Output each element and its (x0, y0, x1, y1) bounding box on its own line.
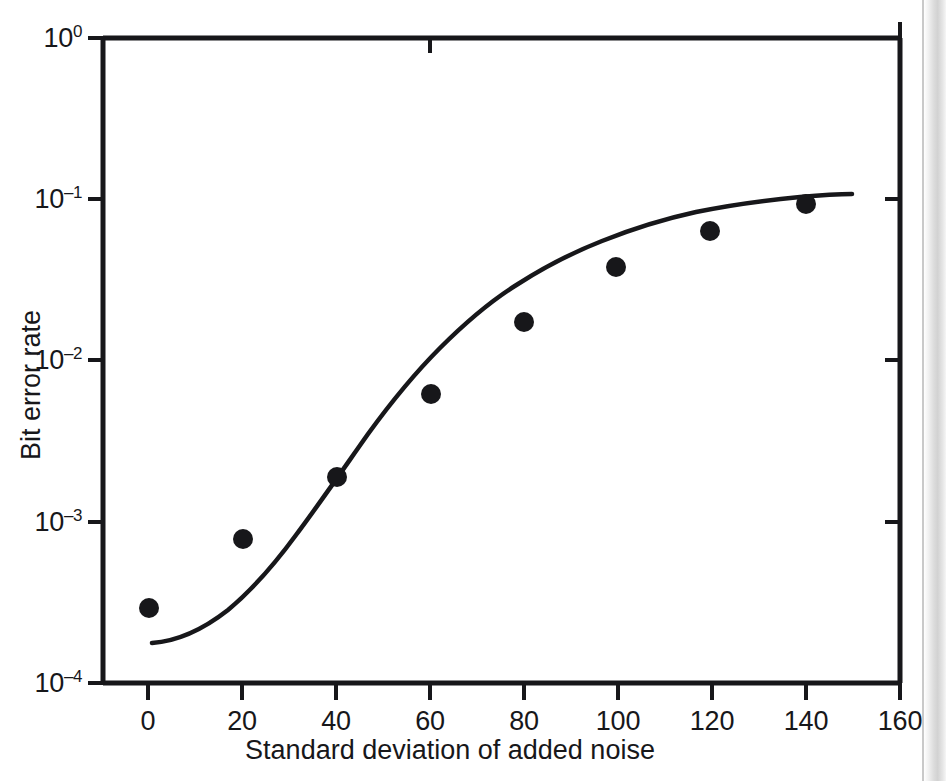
x-tick-label-140: 140 (766, 706, 846, 737)
plot-frame (103, 38, 900, 683)
data-point-x100 (606, 257, 626, 277)
y-axis-title: Bit error rate (16, 310, 47, 460)
x-tick-label-40: 40 (296, 706, 376, 737)
x-axis-ticks-bottom (148, 683, 900, 700)
x-tick-label-80: 80 (484, 706, 564, 737)
data-point-x120 (700, 221, 720, 241)
data-point-x20 (233, 529, 253, 549)
y-tick-label-1e-3: 10–3 (0, 506, 82, 538)
x-tick-label-100: 100 (578, 706, 658, 737)
x-tick-label-120: 120 (672, 706, 752, 737)
data-point-x40 (327, 467, 347, 487)
data-point-x80 (514, 312, 534, 332)
figure-root: 100 10–1 10–2 10–3 10–4 0 20 40 60 80 10… (0, 0, 946, 781)
data-point-markers (139, 194, 816, 618)
x-tick-label-20: 20 (202, 706, 282, 737)
x-tick-label-60: 60 (390, 706, 470, 737)
fitted-curve (152, 194, 852, 643)
y-tick-label-1e-4: 10–4 (0, 667, 82, 699)
plot-canvas (0, 0, 946, 781)
x-tick-label-0: 0 (108, 706, 188, 737)
y-tick-label-1e-1: 10–1 (0, 183, 82, 215)
data-point-x0 (139, 598, 159, 618)
scan-edge-band (924, 0, 946, 781)
data-point-x140 (796, 194, 816, 214)
y-tick-label-1e0: 100 (0, 22, 82, 54)
data-point-x60 (421, 384, 441, 404)
x-axis-title: Standard deviation of added noise (0, 735, 900, 766)
